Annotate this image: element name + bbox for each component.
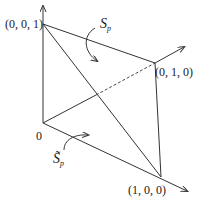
edge-y-to-x <box>155 63 161 177</box>
label-origin: 0 <box>36 129 42 143</box>
edge-z-to-y <box>43 24 155 63</box>
label-x-unit: (1, 0, 0) <box>128 183 166 197</box>
edge-z-to-x <box>43 24 161 177</box>
s-p-subscript: p <box>106 24 111 33</box>
s-p-tilde-subscript: p <box>59 159 64 168</box>
s-p-pointer-arrow <box>86 28 97 61</box>
label-s-p-tilde: S̃p <box>53 151 64 168</box>
origin-to-y-hidden-edge <box>96 63 155 95</box>
label-z-unit: (0, 0, 1) <box>5 17 43 31</box>
label-s-p: Sp <box>100 16 111 33</box>
y-axis <box>155 47 184 63</box>
s-p-symbol: S <box>100 16 107 31</box>
origin-to-y-solid-edge <box>43 95 96 123</box>
x-axis <box>43 123 187 191</box>
label-y-unit: (0, 1, 0) <box>155 65 193 79</box>
simplex-diagram: (0, 0, 1) (0, 1, 0) (1, 0, 0) 0 Sp S̃p <box>0 0 205 201</box>
